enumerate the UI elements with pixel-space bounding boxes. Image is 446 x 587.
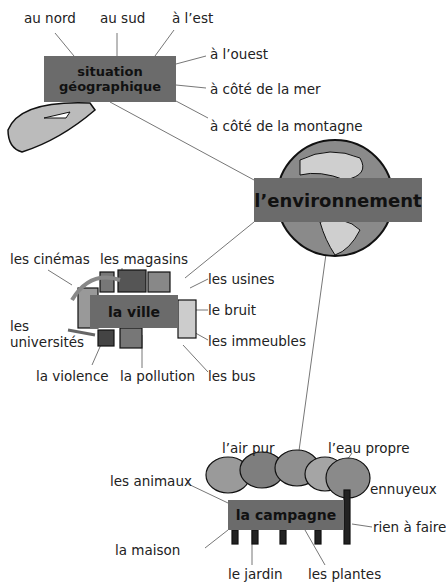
- label-les-animaux: les animaux: [110, 473, 192, 489]
- label-les-cinemas: les cinémas: [10, 251, 90, 267]
- label-les-immeubles: les immeubles: [208, 333, 306, 349]
- center-label: l’environnement: [254, 190, 421, 211]
- label-la-maison: la maison: [115, 542, 180, 558]
- label-la-pollution: la pollution: [120, 368, 195, 384]
- label-a-l-ouest: à l’ouest: [210, 46, 268, 62]
- label-le-bruit: le bruit: [208, 302, 256, 318]
- label-les-magasins: les magasins: [100, 251, 188, 267]
- topic-box-campagne: la campagne: [228, 500, 344, 530]
- label-les-bus: les bus: [208, 368, 256, 384]
- label-a-cote-de-la-montagne: à côté de la montagne: [210, 118, 363, 134]
- label-a-cote-de-la-mer: à côté de la mer: [210, 81, 321, 97]
- topic-label-line2: géographique: [59, 79, 161, 94]
- center-box-environnement: l’environnement: [254, 178, 422, 222]
- label-a-l-est: à l’est: [172, 10, 213, 26]
- topic-box-ville: la ville: [90, 295, 178, 328]
- label-les-plantes: les plantes: [308, 566, 381, 582]
- label-rien-a-faire: rien à faire: [373, 519, 446, 535]
- topic-box-situation: situation géographique: [44, 56, 176, 102]
- label-ennuyeux: ennuyeux: [370, 481, 437, 497]
- label-l-air-pur: l’air pur: [222, 440, 275, 456]
- label-la-violence: la violence: [36, 368, 109, 384]
- label-l-eau-propre: l’eau propre: [328, 440, 410, 456]
- label-au-sud: au sud: [100, 10, 145, 26]
- compass-icon: [8, 103, 95, 152]
- label-les-usines: les usines: [208, 271, 275, 287]
- topic-label: la campagne: [236, 507, 336, 523]
- topic-label: la ville: [108, 304, 160, 320]
- label-le-jardin: le jardin: [228, 566, 283, 582]
- label-au-nord: au nord: [24, 10, 76, 26]
- topic-label-line1: situation: [77, 64, 142, 79]
- label-les-universites: les universités: [10, 318, 80, 350]
